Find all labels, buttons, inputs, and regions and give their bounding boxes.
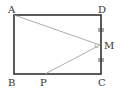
- label-d: D: [98, 4, 106, 15]
- segment-am: [14, 15, 100, 45]
- segment-mp: [45, 45, 100, 74]
- label-p: P: [40, 77, 47, 88]
- label-b: B: [8, 77, 15, 88]
- label-m: M: [104, 40, 114, 51]
- label-a: A: [7, 4, 16, 15]
- label-c: C: [98, 77, 106, 88]
- rectangle-abcd: [14, 15, 101, 74]
- geometry-diagram: A D M B P C: [0, 0, 123, 94]
